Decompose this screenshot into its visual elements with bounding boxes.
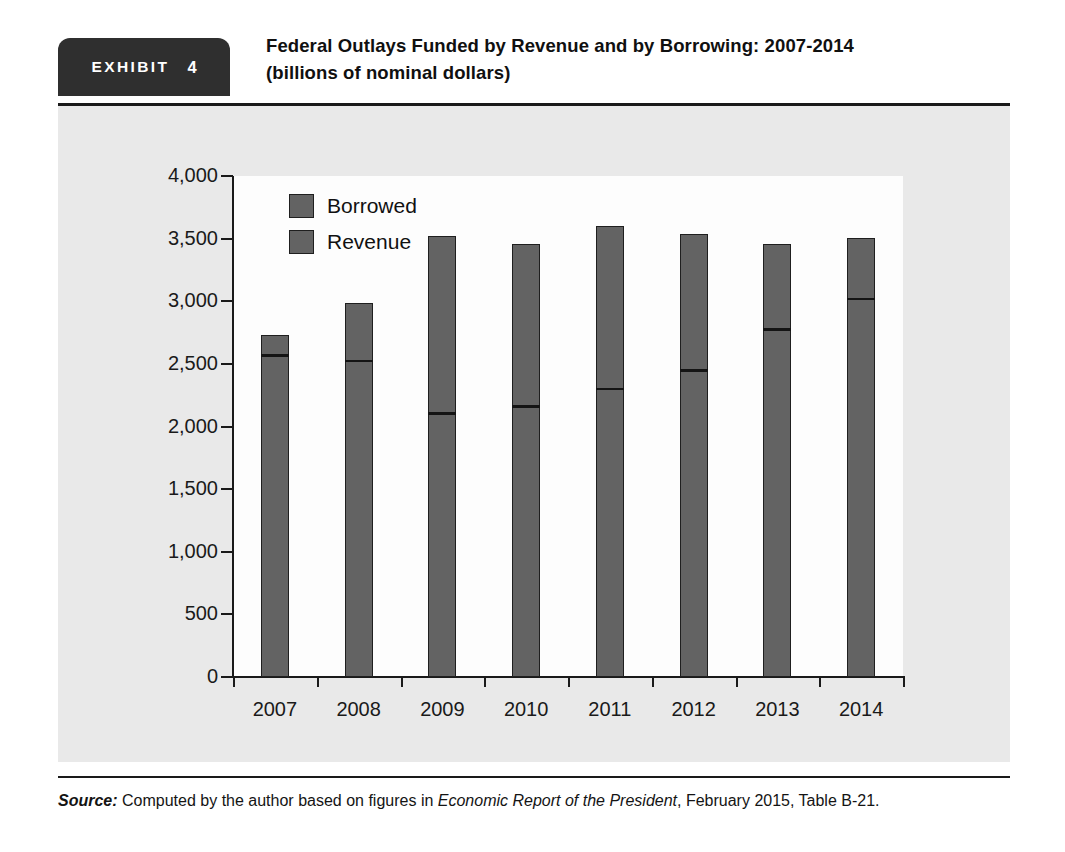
bar-2010 xyxy=(512,244,540,677)
bar-2007 xyxy=(261,335,289,677)
exhibit-title-line-2: (billions of nominal dollars) xyxy=(266,59,1006,86)
exhibit-title-line-1: Federal Outlays Funded by Revenue and by… xyxy=(266,32,1006,59)
exhibit-badge-word: EXHIBIT xyxy=(91,58,169,76)
y-tick-mark xyxy=(221,613,233,615)
exhibit-badge: EXHIBIT 4 xyxy=(58,38,230,96)
source-text-after: , February 2015, Table B-21. xyxy=(677,792,880,809)
legend-item-borrowed: Borrowed xyxy=(289,194,519,218)
x-tick-label: 2012 xyxy=(649,698,739,721)
x-tick-mark xyxy=(317,676,319,687)
y-tick-mark xyxy=(221,676,233,678)
legend-label-borrowed: Borrowed xyxy=(327,194,417,218)
bar-2011 xyxy=(596,226,624,677)
legend-swatch-revenue xyxy=(289,230,314,254)
y-tick-mark xyxy=(221,175,233,177)
x-tick-mark xyxy=(401,676,403,687)
y-tick-label: 2,500 xyxy=(118,352,218,375)
y-tick-label: 2,000 xyxy=(118,415,218,438)
footer-divider-rule xyxy=(58,776,1010,778)
bar-2009 xyxy=(428,236,456,677)
x-tick-mark xyxy=(903,676,905,687)
y-tick-mark xyxy=(221,300,233,302)
x-tick-mark xyxy=(568,676,570,687)
exhibit-title: Federal Outlays Funded by Revenue and by… xyxy=(266,32,1006,86)
bar-divider-2011 xyxy=(596,388,624,391)
x-tick-label: 2014 xyxy=(816,698,906,721)
y-tick-label: 1,000 xyxy=(118,540,218,563)
x-tick-mark xyxy=(652,676,654,687)
y-tick-mark xyxy=(221,238,233,240)
y-tick-mark xyxy=(221,488,233,490)
x-tick-label: 2008 xyxy=(314,698,404,721)
legend-swatch-borrowed xyxy=(289,194,314,218)
legend-item-revenue: Revenue xyxy=(289,230,519,254)
legend-label-revenue: Revenue xyxy=(327,230,411,254)
y-tick-label: 3,000 xyxy=(118,289,218,312)
bar-2013 xyxy=(763,244,791,677)
exhibit-header: EXHIBIT 4 Federal Outlays Funded by Reve… xyxy=(58,32,1010,104)
y-tick-label: 0 xyxy=(118,665,218,688)
x-tick-mark xyxy=(819,676,821,687)
source-label: Source: xyxy=(58,792,118,809)
x-tick-label: 2011 xyxy=(565,698,655,721)
bar-divider-2007 xyxy=(261,354,289,357)
x-tick-mark xyxy=(233,676,235,687)
y-tick-mark xyxy=(221,363,233,365)
chart-legend: Borrowed Revenue xyxy=(289,194,519,266)
source-note: Source: Computed by the author based on … xyxy=(58,788,1010,813)
source-text-before: Computed by the author based on figures … xyxy=(118,792,438,809)
chart-panel: 05001,0001,5002,0002,5003,0003,5004,000 … xyxy=(58,106,1010,762)
exhibit-badge-number: 4 xyxy=(187,58,196,77)
bar-divider-2009 xyxy=(428,412,456,415)
bar-divider-2008 xyxy=(345,360,373,363)
y-tick-mark xyxy=(221,426,233,428)
x-tick-mark xyxy=(484,676,486,687)
bar-divider-2010 xyxy=(512,405,540,408)
y-tick-mark xyxy=(221,551,233,553)
x-tick-label: 2010 xyxy=(481,698,571,721)
y-tick-label: 3,500 xyxy=(118,227,218,250)
exhibit-page: EXHIBIT 4 Federal Outlays Funded by Reve… xyxy=(0,0,1065,852)
x-tick-mark xyxy=(736,676,738,687)
bar-2012 xyxy=(680,234,708,677)
x-tick-label: 2009 xyxy=(397,698,487,721)
bar-divider-2014 xyxy=(847,298,875,301)
source-publication-title: Economic Report of the President xyxy=(438,792,677,809)
bar-divider-2013 xyxy=(763,328,791,331)
y-tick-label: 1,500 xyxy=(118,477,218,500)
x-tick-label: 2007 xyxy=(230,698,320,721)
y-tick-label: 4,000 xyxy=(118,164,218,187)
bar-divider-2012 xyxy=(680,369,708,372)
x-tick-label: 2013 xyxy=(732,698,822,721)
y-tick-label: 500 xyxy=(118,602,218,625)
bar-2014 xyxy=(847,238,875,677)
